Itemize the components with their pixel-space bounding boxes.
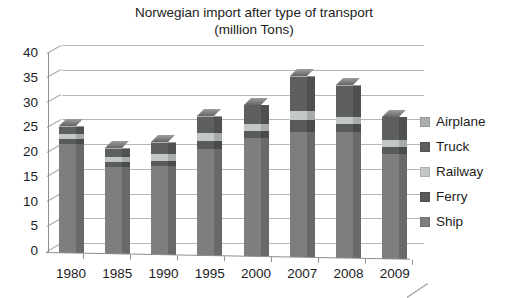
bar-segment-truck [105, 149, 130, 157]
bar-segment-ferry [382, 147, 407, 154]
bar-segment-ship [105, 167, 130, 254]
bar-top-face [197, 109, 221, 116]
bar-segment-railway [105, 157, 130, 162]
bar-segment-railway [382, 140, 407, 147]
bar-2007 [290, 45, 315, 265]
x-tick [412, 260, 413, 265]
bar-top-face [244, 98, 268, 105]
bar-segment-ferry [244, 131, 269, 138]
bar-segment-truck [197, 117, 222, 133]
bar-segment-railway [59, 134, 84, 139]
chart-title-line2: (million Tons) [0, 21, 508, 38]
x-axis-label: 1980 [48, 266, 94, 281]
legend-swatch-ship [420, 217, 430, 227]
legend-swatch-airplane [420, 117, 430, 127]
bar-segment-ferry [290, 120, 315, 132]
y-axis-label: 20 [0, 145, 38, 159]
x-axis-label: 2009 [372, 266, 418, 281]
y-axis: 4035302520151050 [0, 45, 40, 265]
legend-swatch-ferry [420, 192, 430, 202]
bar-segment-truck [382, 117, 407, 139]
legend-swatch-truck [420, 142, 430, 152]
bar-1985 [105, 45, 130, 265]
bar-segment-ship [336, 132, 361, 258]
bar-top-face [336, 78, 360, 85]
x-tick [271, 257, 272, 262]
x-tick [318, 258, 319, 263]
legend: AirplaneTruckRailwayFerryShip [420, 109, 508, 234]
legend-label: Ship [436, 214, 463, 229]
x-tick [83, 254, 84, 259]
x-axis: 19801985199019952000200720082009 [48, 266, 418, 281]
legend-item-ship: Ship [420, 209, 508, 234]
bar-top-face [151, 135, 175, 142]
legend-item-truck: Truck [420, 134, 508, 159]
bar-segment-ferry [151, 161, 176, 166]
chart-title-line1: Norwegian import after type of transport [0, 4, 508, 21]
bar-2000 [244, 45, 269, 265]
bar-segment-railway [197, 133, 222, 141]
bar-segment-ferry [105, 162, 130, 167]
floor-right-edge [407, 283, 428, 298]
bar-segment-ferry [336, 124, 361, 132]
y-axis-label: 5 [0, 219, 38, 233]
bar-top-face [290, 69, 314, 76]
bar-segment-truck [244, 105, 269, 123]
bar-segment-railway [290, 111, 315, 119]
bar-1990 [151, 45, 176, 265]
y-axis-label: 40 [0, 46, 38, 60]
legend-item-railway: Railway [420, 159, 508, 184]
bar-top-face [59, 119, 83, 126]
bar-segment-ferry [59, 139, 84, 144]
x-tick [224, 256, 225, 261]
bar-segment-ship [197, 149, 222, 255]
y-axis-line [48, 53, 49, 253]
legend-swatch-railway [420, 167, 430, 177]
bar-segment-railway [244, 124, 269, 131]
bar-segment-railway [151, 154, 176, 160]
x-axis-label: 2007 [279, 266, 325, 281]
bar-segment-ship [151, 166, 176, 255]
legend-label: Railway [436, 164, 483, 179]
bar-2009 [382, 45, 407, 265]
bar-segment-ship [382, 154, 407, 259]
bar-segment-truck [290, 77, 315, 112]
x-tick [365, 259, 366, 264]
plot-area [48, 45, 424, 265]
bar-segment-railway [336, 117, 361, 124]
bar-1980 [59, 45, 84, 265]
y-axis-label: 15 [0, 170, 38, 184]
bar-segment-ferry [197, 141, 222, 149]
y-axis-label: 0 [0, 244, 38, 258]
bar-segment-truck [336, 86, 361, 117]
legend-item-ferry: Ferry [420, 184, 508, 209]
x-axis-label: 1990 [141, 266, 187, 281]
bar-segment-truck [59, 127, 84, 134]
bar-2008 [336, 45, 361, 265]
bar-segment-ship [59, 144, 84, 253]
x-tick [177, 255, 178, 260]
bar-top-face [105, 141, 129, 148]
bar-top-face [382, 110, 406, 117]
x-axis-label: 2008 [326, 266, 372, 281]
y-axis-label: 30 [0, 96, 38, 110]
chart-title: Norwegian import after type of transport… [0, 4, 508, 38]
legend-label: Airplane [436, 114, 486, 129]
legend-label: Truck [436, 139, 469, 154]
y-axis-label: 25 [0, 120, 38, 134]
bar-segment-ship [244, 138, 269, 257]
x-axis-label: 1985 [94, 266, 140, 281]
x-axis-label: 2000 [233, 266, 279, 281]
bar-1995 [197, 45, 222, 265]
x-tick [130, 255, 131, 260]
bar-segment-truck [151, 143, 176, 154]
y-axis-label: 35 [0, 71, 38, 85]
legend-label: Ferry [436, 189, 468, 204]
legend-item-airplane: Airplane [420, 109, 508, 134]
bar-segment-ship [290, 132, 315, 258]
y-axis-label: 10 [0, 195, 38, 209]
x-axis-label: 1995 [187, 266, 233, 281]
